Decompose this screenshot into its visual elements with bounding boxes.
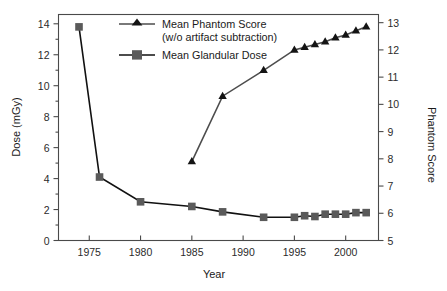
legend-entry-glandular-dose: Mean Glandular Dose [119,49,267,61]
glandular-dose-marker [362,209,370,217]
legend-label-dose-line1: Mean Glandular Dose [162,49,267,61]
legend-label-phantom-line1: Mean Phantom Score [162,18,266,30]
chart-background [0,0,447,291]
glandular-dose-marker [291,213,299,221]
y2-tick-label: 6 [388,207,394,219]
y-tick-label: 2 [44,204,50,216]
y2-tick-label: 13 [388,17,400,29]
x-axis-title: Year [203,268,226,280]
y-tick-label: 12 [38,49,50,61]
dose-phantom-score-line-chart: 197519801985199019952000 02468101214 567… [0,0,447,291]
glandular-dose-marker [75,23,83,31]
y-tick-label: 10 [38,80,50,92]
x-tick-label: 1985 [180,246,204,258]
x-tick-label: 1990 [231,246,255,258]
glandular-dose-marker [96,173,104,181]
y-tick-label: 6 [44,142,50,154]
glandular-dose-marker [301,212,309,220]
y-axis-right-title: Phantom Score [426,107,438,183]
glandular-dose-marker [219,208,227,216]
y-tick-label: 14 [38,18,50,30]
y-tick-label: 8 [44,111,50,123]
glandular-dose-marker [260,213,268,221]
glandular-dose-marker [321,210,329,218]
y2-tick-label: 12 [388,44,400,56]
y2-tick-label: 9 [388,126,394,138]
chart-figure: 197519801985199019952000 02468101214 567… [0,0,447,291]
y-axis-left-title: Dose (mGy) [10,97,22,156]
y2-tick-label: 7 [388,180,394,192]
glandular-dose-marker [311,213,319,221]
x-tick-label: 1975 [78,246,102,258]
x-tick-label: 1980 [129,246,153,258]
x-tick-label: 2000 [334,246,358,258]
y2-tick-label: 10 [388,98,400,110]
y-tick-label: 0 [44,235,50,247]
square-marker-icon [132,50,142,59]
glandular-dose-marker [137,198,145,206]
glandular-dose-marker [332,210,340,218]
glandular-dose-marker [188,203,196,211]
y-tick-label: 4 [44,173,50,185]
y2-tick-label: 11 [388,71,399,83]
glandular-dose-marker [352,209,360,217]
glandular-dose-marker [342,210,350,218]
legend-label-phantom-line2: (w/o artifact subtraction) [162,31,277,43]
x-tick-label: 1995 [283,246,307,258]
y2-tick-label: 8 [388,153,394,165]
y2-tick-label: 5 [388,235,394,247]
